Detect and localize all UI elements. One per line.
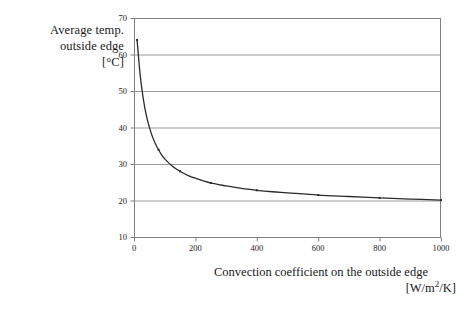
marker-point [317, 194, 319, 196]
y-tick-label-20: 20 [111, 196, 127, 206]
data-point-markers [136, 39, 442, 201]
gridlines [134, 19, 441, 238]
data-series-line [137, 40, 441, 200]
x-tick-label-0: 0 [119, 243, 149, 253]
chart-figure: Average temp. outside edge [°C] Convecti… [0, 0, 472, 313]
marker-point [256, 189, 258, 191]
y-tick-label-10: 10 [111, 232, 127, 242]
marker-point [136, 39, 138, 41]
x-tick-label-600: 600 [303, 243, 333, 253]
x-tick-label-200: 200 [180, 243, 210, 253]
y-tick-label-60: 60 [111, 50, 127, 60]
y-tick-label-40: 40 [111, 123, 127, 133]
y-tick-label-30: 30 [111, 159, 127, 169]
marker-point [440, 199, 442, 201]
x-tick-label-400: 400 [242, 243, 272, 253]
y-tick-label-50: 50 [111, 86, 127, 96]
y-tick-label-70: 70 [111, 13, 127, 23]
plot-area [0, 0, 472, 313]
x-tick-label-800: 800 [365, 243, 395, 253]
series-line-average-temperature [137, 40, 441, 200]
marker-point [179, 170, 181, 172]
marker-point [379, 197, 381, 199]
marker-point [158, 149, 160, 151]
axis-ticks [131, 19, 442, 242]
x-tick-label-1000: 1000 [426, 243, 456, 253]
marker-point [210, 182, 212, 184]
